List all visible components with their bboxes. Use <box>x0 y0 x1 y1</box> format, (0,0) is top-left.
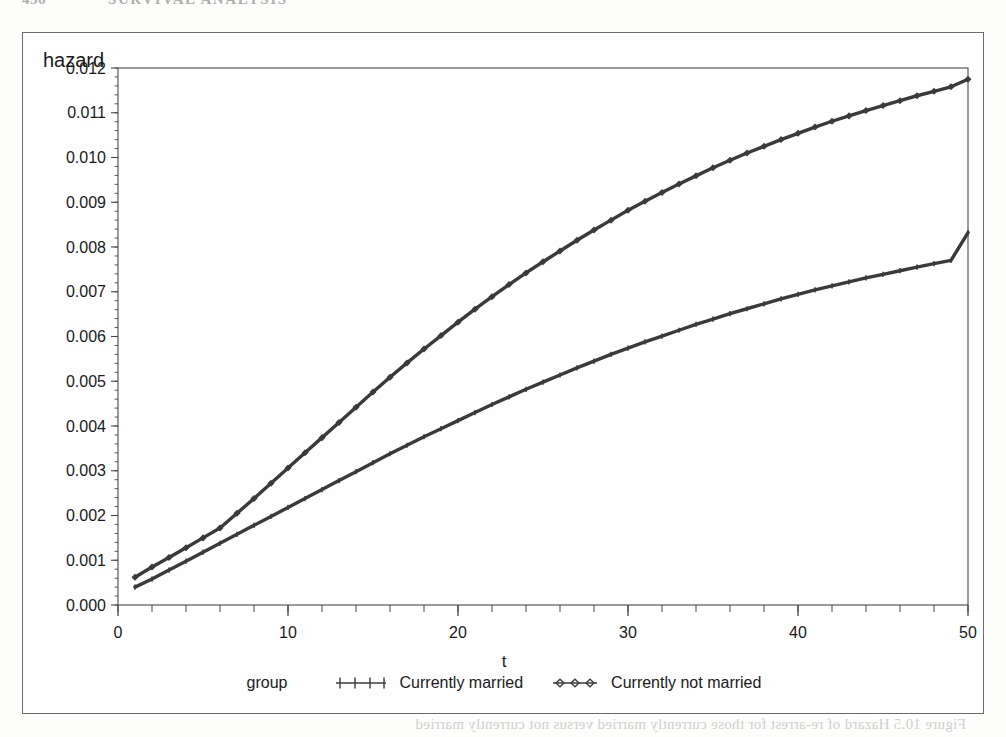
svg-text:0.008: 0.008 <box>66 239 106 256</box>
plus-marker-icon <box>332 675 390 691</box>
chart-legend: group Currently married <box>23 674 985 692</box>
svg-text:40: 40 <box>789 624 807 641</box>
svg-text:0.009: 0.009 <box>66 194 106 211</box>
svg-text:30: 30 <box>619 624 637 641</box>
svg-text:0.005: 0.005 <box>66 373 106 390</box>
x-axis-title: t <box>23 652 985 672</box>
svg-text:0.000: 0.000 <box>66 597 106 614</box>
svg-text:0.006: 0.006 <box>66 328 106 345</box>
legend-label-currently-not-married: Currently not married <box>611 674 761 692</box>
legend-title: group <box>247 674 288 692</box>
svg-text:0.001: 0.001 <box>66 552 106 569</box>
diamond-marker-icon <box>549 675 601 691</box>
running-head-page-number: 436 <box>22 0 46 5</box>
svg-text:0.003: 0.003 <box>66 462 106 479</box>
svg-text:10: 10 <box>279 624 297 641</box>
svg-text:0.011: 0.011 <box>67 104 106 121</box>
hazard-line-chart: 0.0000.0010.0020.0030.0040.0050.0060.007… <box>23 33 985 715</box>
page-bleed-through-note: Figure 10.5 Hazard of re-arrest for thos… <box>26 716 966 733</box>
svg-text:0.010: 0.010 <box>66 149 106 166</box>
svg-text:0.004: 0.004 <box>66 418 106 435</box>
legend-label-currently-married: Currently married <box>400 674 524 692</box>
svg-text:20: 20 <box>449 624 467 641</box>
svg-text:50: 50 <box>959 624 977 641</box>
svg-text:0.002: 0.002 <box>66 507 106 524</box>
running-head: 436 SURVIVAL ANALYSIS <box>0 0 1006 5</box>
running-head-title: SURVIVAL ANALYSIS <box>108 0 288 5</box>
svg-text:0.007: 0.007 <box>66 283 106 300</box>
svg-text:0: 0 <box>114 624 123 641</box>
plot-area: hazard 0.0000.0010.0020.0030.0040.0050.0… <box>23 33 985 715</box>
svg-text:0.012: 0.012 <box>66 60 106 77</box>
figure-frame: hazard 0.0000.0010.0020.0030.0040.0050.0… <box>22 32 984 714</box>
